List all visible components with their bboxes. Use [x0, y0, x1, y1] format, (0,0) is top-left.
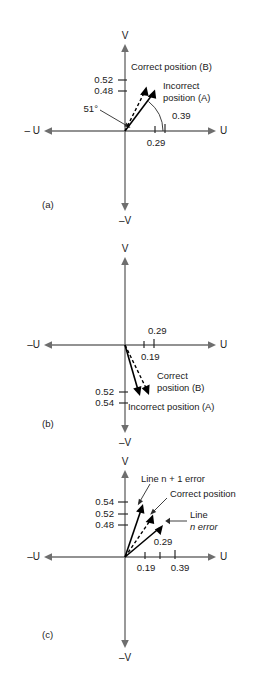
panel-b-xlabel-029: 0.29 — [148, 325, 167, 336]
panel-c-leader-line-n-plus-1 — [138, 484, 150, 505]
panel-c-label-line-n-b: n error — [190, 521, 218, 532]
panel-b-u-axis — [44, 341, 216, 349]
panel-a-axis-label-u-pos: U — [220, 125, 227, 136]
panel-c-xlabel-039: 0.39 — [171, 562, 190, 573]
panel-a-u-axis — [44, 127, 216, 135]
panel-a-angle-arc — [149, 102, 164, 132]
panel-a: U – U V –V 0.52 0.48 0.29 0.39 51° — [24, 30, 227, 226]
panel-c-u-axis — [44, 553, 216, 561]
panel-c-leader-line-n-error — [165, 518, 187, 524]
panel-b: U –U V –V 0.29 0.19 0.52 0.54 Correct po… — [27, 243, 227, 448]
panel-c-label-correct-position: Correct position — [170, 488, 236, 499]
panel-b-label-correct-line2: position (B) — [157, 382, 204, 393]
panel-b-axis-label-u-neg: –U — [27, 339, 40, 350]
panel-b-axis-label-u-pos: U — [220, 339, 227, 350]
panel-c: U –U V –V 0.54 0.52 0.48 0.29 0.19 0.39 — [27, 456, 235, 663]
panel-c-xlabel-019: 0.19 — [137, 562, 156, 573]
panel-c-axis-label-u-neg: –U — [27, 551, 40, 562]
panel-a-xlabel-039: 0.39 — [172, 110, 191, 121]
panel-b-axis-label-v-neg: –V — [119, 437, 132, 448]
panel-c-axis-label-u-pos: U — [220, 551, 227, 562]
panel-c-xlabel-029: 0.29 — [154, 536, 173, 547]
panel-c-ylabel-048: 0.48 — [95, 519, 114, 530]
panel-b-vector-incorrect-position-a — [125, 345, 141, 396]
panel-c-panel-label: (c) — [42, 629, 53, 640]
panel-c-ylabel-052: 0.52 — [95, 508, 114, 519]
panel-a-angle-label: 51° — [83, 103, 98, 114]
panel-a-axis-label-v-neg: –V — [119, 215, 132, 226]
panel-a-angle-leader — [100, 110, 131, 128]
panel-b-ylabel-052: 0.52 — [95, 386, 114, 397]
panel-a-label-correct-position: Correct position (B) — [131, 61, 212, 72]
panel-a-label-incorrect-line1: Incorrect — [163, 80, 200, 91]
panel-c-axis-label-v-pos: V — [122, 456, 129, 467]
panel-b-panel-label: (b) — [42, 418, 54, 429]
panel-c-label-line-n-a: Line — [190, 509, 208, 520]
panel-a-xlabel-029: 0.29 — [147, 137, 166, 148]
panel-c-axis-label-v-neg: –V — [119, 652, 132, 663]
panel-b-label-incorrect: Incorrect position (A) — [128, 401, 215, 412]
panel-a-label-incorrect-line2: position (A) — [163, 92, 210, 103]
panel-c-label-line-n-plus-1: Line n + 1 error — [141, 473, 205, 484]
panel-c-ylabel-054: 0.54 — [95, 496, 114, 507]
panel-b-ylabel-054: 0.54 — [95, 397, 114, 408]
panel-c-leader-correct-position — [150, 498, 167, 515]
panel-a-axis-label-u-neg: – U — [24, 125, 40, 136]
vector-diagram-figure: U – U V –V 0.52 0.48 0.29 0.39 51° — [0, 0, 274, 680]
panel-c-v-axis — [121, 470, 129, 648]
panel-a-vector-incorrect-position-a — [125, 90, 156, 132]
panel-a-vector-correct-position-b — [125, 87, 149, 132]
panel-b-axis-label-v-pos: V — [122, 243, 129, 254]
panel-a-ylabel-052: 0.52 — [94, 74, 113, 85]
panel-a-axis-label-v-pos: V — [122, 30, 129, 41]
panel-b-label-correct-line1: Correct — [157, 370, 188, 381]
panel-a-panel-label: (a) — [42, 199, 54, 210]
panel-b-xlabel-019: 0.19 — [141, 351, 160, 362]
panel-a-ylabel-048: 0.48 — [94, 85, 113, 96]
